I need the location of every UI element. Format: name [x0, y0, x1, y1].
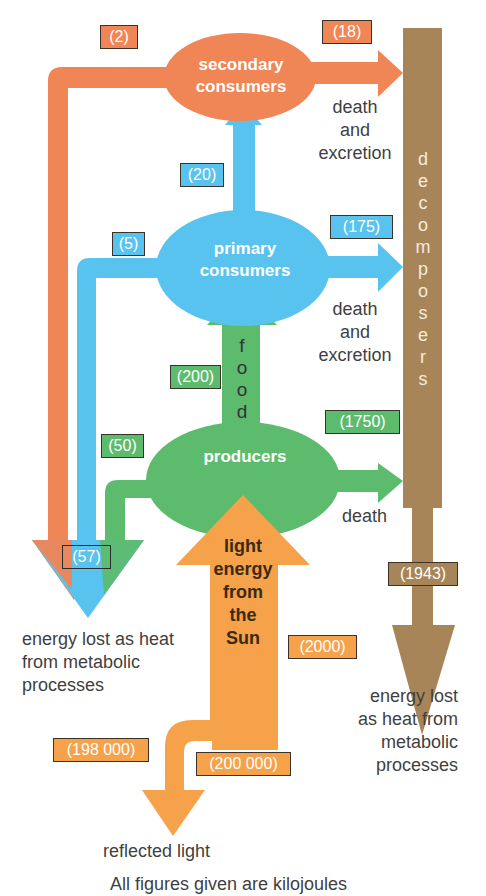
reflected-light-label: reflected light	[103, 840, 210, 863]
sunlight-label: light energy from the Sun	[198, 535, 288, 650]
value-primary-to-secondary: (20)	[180, 163, 224, 187]
value-producers-to-decomposers: (1750)	[325, 410, 400, 434]
value-secondary-heat: (2)	[100, 25, 138, 49]
producers-death-label: death	[342, 505, 387, 528]
value-primary-heat: (5)	[112, 232, 145, 256]
decomposers-label: d e c o m p o s e r s	[413, 148, 433, 390]
footer-note: All figures given are kilojoules	[110, 873, 347, 896]
value-sun-absorbed: (2000)	[288, 635, 357, 659]
value-sun-reflected: (198 000)	[53, 738, 149, 762]
value-producers-heat: (50)	[101, 434, 144, 458]
value-primary-to-decomposers: (175)	[330, 215, 393, 239]
value-total-heat: (57)	[62, 545, 111, 569]
value-sun-total: (200 000)	[196, 752, 291, 776]
secondary-death-excretion-label: death and excretion	[310, 96, 400, 165]
value-decomposers-heat: (1943)	[388, 562, 458, 586]
value-secondary-to-decomposers: (18)	[322, 20, 372, 44]
heat-loss-left-label: energy lost as heat from metabolic proce…	[22, 628, 174, 697]
heat-loss-right-label: energy lost as heat from metabolic proce…	[330, 685, 458, 777]
primary-death-excretion-label: death and excretion	[310, 298, 400, 367]
primary-consumers-label: primary consumers	[180, 238, 310, 282]
food-label: f o o d	[232, 335, 252, 423]
secondary-consumers-label: secondary consumers	[180, 54, 302, 98]
value-food: (200)	[170, 365, 221, 389]
producers-label: producers	[180, 446, 310, 468]
